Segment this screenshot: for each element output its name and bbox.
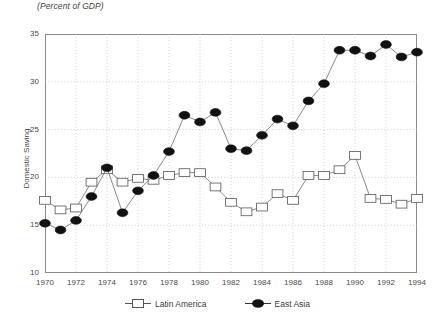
data-point-open-square <box>257 203 268 211</box>
data-point-filled-circle <box>226 145 237 153</box>
data-point-open-square <box>350 152 361 160</box>
data-point-open-square <box>40 196 51 204</box>
data-point-filled-circle <box>381 41 392 49</box>
data-point-filled-circle <box>412 48 423 56</box>
open-square-marker-icon <box>125 298 151 309</box>
data-point-filled-circle <box>86 193 97 201</box>
data-point-open-square <box>412 195 423 203</box>
data-point-filled-circle <box>55 226 66 234</box>
data-point-open-square <box>396 200 407 208</box>
data-point-filled-circle <box>164 148 175 156</box>
series-latin-america <box>40 152 423 216</box>
data-point-open-square <box>210 183 221 191</box>
data-point-open-square <box>133 174 144 182</box>
data-point-filled-circle <box>319 80 330 88</box>
data-point-filled-circle <box>365 52 376 60</box>
data-point-open-square <box>334 166 345 174</box>
data-point-open-square <box>288 196 299 204</box>
data-point-filled-circle <box>179 111 190 119</box>
data-point-filled-circle <box>334 46 345 54</box>
data-point-open-square <box>179 169 190 177</box>
data-point-open-square <box>381 195 392 203</box>
data-point-filled-circle <box>102 164 113 172</box>
filled-circle-marker-icon <box>245 298 271 309</box>
data-point-open-square <box>71 204 82 212</box>
data-point-filled-circle <box>148 172 159 180</box>
data-point-open-square <box>55 206 66 214</box>
data-point-open-square <box>319 172 330 180</box>
data-point-filled-circle <box>40 219 51 227</box>
data-point-open-square <box>303 172 314 180</box>
data-point-open-square <box>241 208 252 216</box>
data-point-filled-circle <box>133 187 144 195</box>
legend-label: Latin America <box>155 299 207 309</box>
data-point-filled-circle <box>195 118 206 126</box>
data-point-filled-circle <box>241 147 252 155</box>
chart-legend: Latin America East Asia <box>0 298 435 309</box>
data-point-filled-circle <box>117 209 128 217</box>
data-point-filled-circle <box>272 115 283 123</box>
data-point-open-square <box>164 172 175 180</box>
gridlines <box>45 34 417 273</box>
data-point-filled-circle <box>288 122 299 130</box>
data-point-open-square <box>195 169 206 177</box>
data-point-open-square <box>365 195 376 203</box>
data-point-filled-circle <box>303 97 314 105</box>
legend-item-east-asia[interactable]: East Asia <box>245 298 310 309</box>
data-point-open-square <box>117 178 128 186</box>
data-point-filled-circle <box>257 131 268 139</box>
plot-svg <box>0 0 435 319</box>
data-point-open-square <box>272 190 283 198</box>
data-point-filled-circle <box>396 53 407 61</box>
data-point-filled-circle <box>210 108 221 116</box>
saving-rate-line-chart: (Percent of GDP) Domestic Saving 1015202… <box>0 0 435 319</box>
legend-item-latin-america[interactable]: Latin America <box>125 298 207 309</box>
data-point-open-square <box>226 198 237 206</box>
legend-label: East Asia <box>275 299 310 309</box>
data-point-filled-circle <box>350 46 361 54</box>
data-point-open-square <box>86 178 97 186</box>
data-point-filled-circle <box>71 217 82 225</box>
